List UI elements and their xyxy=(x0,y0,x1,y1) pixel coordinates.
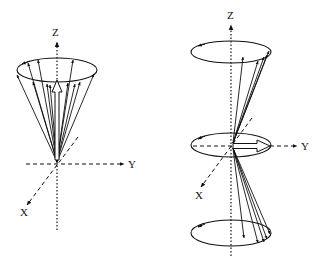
x-axis xyxy=(201,118,252,187)
right-diagram: Z Y X xyxy=(191,9,309,256)
y-axis-label: Y xyxy=(128,158,136,170)
x-axis-label: X xyxy=(20,206,28,218)
magnetization-diagram: Z Y X Z xyxy=(0,0,323,266)
z-axis-label: Z xyxy=(227,9,234,21)
x-axis-label: X xyxy=(195,189,203,201)
left-diagram: Z Y X xyxy=(17,26,136,230)
net-magnetization-arrow xyxy=(233,140,270,152)
y-axis-label: Y xyxy=(301,140,309,152)
z-axis-label: Z xyxy=(52,26,59,38)
down-spin-vectors xyxy=(233,148,270,243)
up-spin-vectors xyxy=(233,51,269,143)
